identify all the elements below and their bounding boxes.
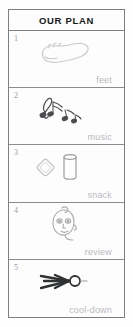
poster-header: OUR PLAN (9, 10, 124, 31)
row-label: music (87, 132, 112, 142)
plan-row-3[interactable]: 3 snack (9, 145, 124, 202)
foot-icon (29, 33, 105, 71)
music-notes-icon (29, 90, 105, 128)
row-number: 2 (14, 91, 18, 100)
cracker-and-cup-icon (29, 147, 105, 185)
row-label: cool-down (69, 305, 112, 315)
plan-poster: OUR PLAN 1 feet (0, 0, 133, 327)
stretching-figure-icon (29, 262, 105, 300)
row-number: 1 (14, 34, 18, 43)
row-number: 5 (14, 263, 18, 272)
page-title: OUR PLAN (39, 15, 94, 26)
row-label: snack (87, 190, 112, 200)
plan-row-1[interactable]: 1 feet (9, 31, 124, 88)
plan-row-2[interactable]: 2 (9, 88, 124, 145)
face-icon (29, 205, 105, 243)
plan-rows: 1 feet 2 (9, 31, 124, 317)
plan-frame: OUR PLAN 1 feet (8, 9, 125, 318)
row-label: review (85, 247, 112, 257)
row-number: 4 (14, 206, 18, 215)
plan-row-5[interactable]: 5 cool-down (9, 260, 124, 317)
plan-row-4[interactable]: 4 (9, 203, 124, 260)
row-label: feet (96, 75, 112, 85)
row-number: 3 (14, 148, 18, 157)
